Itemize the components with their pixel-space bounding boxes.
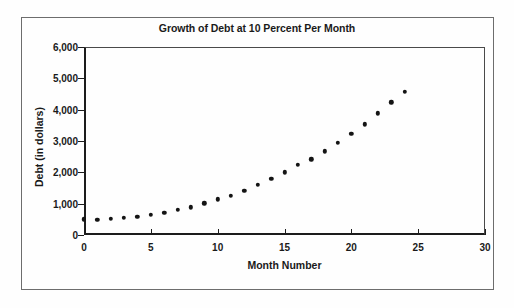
x-axis-tick-label: 15 [279, 242, 290, 253]
x-axis-tick-mark [485, 229, 486, 235]
x-axis-tick-mark [418, 229, 419, 235]
y-axis-tick-mark [78, 141, 84, 142]
x-axis-title: Month Number [84, 259, 485, 271]
y-axis-tick-mark [78, 204, 84, 205]
y-axis-title: Debt (in dollars) [33, 82, 45, 212]
x-axis-tick-label: 0 [81, 242, 87, 253]
y-axis-tick-mark [78, 172, 84, 173]
plot-area [84, 47, 485, 235]
y-axis-tick-mark [78, 110, 84, 111]
y-axis-tick-label: 3,000 [53, 136, 78, 147]
x-axis-tick-label: 20 [346, 242, 357, 253]
x-axis-tick-label: 25 [413, 242, 424, 253]
y-axis-tick-label: 6,000 [53, 42, 78, 53]
y-axis-tick-mark [78, 47, 84, 48]
x-axis-tick-label: 5 [148, 242, 154, 253]
y-axis-tick-label: 1,000 [53, 198, 78, 209]
y-axis-tick-mark [78, 78, 84, 79]
y-axis-tick-label: 2,000 [53, 167, 78, 178]
x-axis-tick-label: 10 [212, 242, 223, 253]
x-axis-tick-mark [351, 229, 352, 235]
y-axis-tick-label: 5,000 [53, 73, 78, 84]
x-axis-tick-mark [151, 229, 152, 235]
y-axis-tick-label: 4,000 [53, 104, 78, 115]
x-axis-tick-label: 30 [479, 242, 490, 253]
x-axis-tick-mark [285, 229, 286, 235]
x-axis-tick-mark [218, 229, 219, 235]
y-axis-tick-mark [78, 235, 84, 236]
x-axis-tick-mark [84, 229, 85, 235]
chart-figure: Growth of Debt at 10 Percent Per Month 0… [0, 0, 514, 308]
